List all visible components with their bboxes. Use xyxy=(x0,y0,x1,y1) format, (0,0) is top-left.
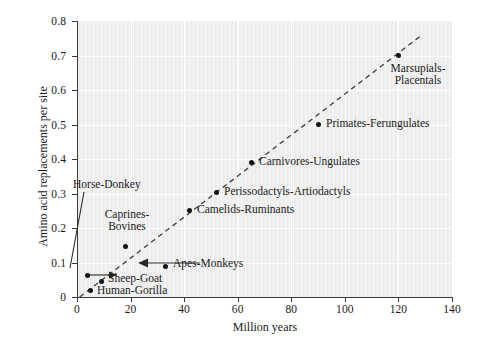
y-axis-line xyxy=(77,21,78,298)
x-axis-tick xyxy=(398,297,399,302)
y-axis-tick xyxy=(72,228,77,229)
x-axis-tick-label: 100 xyxy=(336,303,354,315)
x-axis-tick-label: 60 xyxy=(232,303,244,315)
x-axis-tick xyxy=(345,297,346,302)
data-point-horse-donkey xyxy=(85,273,90,278)
gridline-horizontal xyxy=(77,90,452,91)
data-label-horse-donkey: Horse-Donkey xyxy=(73,178,141,190)
y-axis-tick xyxy=(72,90,77,91)
data-label-camelids-ruminants: Camelids-Ruminants xyxy=(197,203,294,215)
gridline-vertical xyxy=(131,21,132,297)
y-axis-tick xyxy=(72,297,77,298)
data-label-carnivores-ungulates: Carnivores-Ungulates xyxy=(259,155,360,167)
data-label-human-gorilla: Human-Gorilla xyxy=(97,284,167,296)
y-axis-tick-label: 0.1 xyxy=(51,257,66,269)
data-label-primates-ferungulates: Primates-Ferungulates xyxy=(326,117,429,129)
data-point-carnivores-ungulates xyxy=(249,160,254,165)
x-axis-tick xyxy=(238,297,239,302)
y-axis-tick-label: 0.2 xyxy=(51,222,66,234)
y-axis-tick-label: 0.8 xyxy=(51,15,66,27)
x-axis-tick-label: 120 xyxy=(390,303,408,315)
x-axis-tick-label: 40 xyxy=(178,303,190,315)
data-label-apes-monkeys: Apes-Monkeys xyxy=(173,257,243,269)
x-axis-tick-label: 80 xyxy=(285,303,297,315)
y-axis-tick-label: 0.6 xyxy=(51,84,66,96)
y-axis-tick xyxy=(72,159,77,160)
gridline-horizontal xyxy=(77,263,452,264)
data-label-sheep-goat: Sheep-Goat xyxy=(108,272,162,284)
gridline-vertical xyxy=(238,21,239,297)
x-axis-tick-label: 20 xyxy=(125,303,137,315)
x-axis-tick xyxy=(77,297,78,302)
x-axis-tick xyxy=(184,297,185,302)
y-axis-tick xyxy=(72,21,77,22)
data-point-caprines-bovines xyxy=(123,244,128,249)
y-axis-tick-label: 0.7 xyxy=(51,50,66,62)
data-point-marsupials-placentals xyxy=(396,53,401,58)
y-axis-tick-label: 0 xyxy=(60,291,66,303)
y-axis-tick-label: 0.4 xyxy=(51,153,66,165)
y-axis-tick xyxy=(72,194,77,195)
y-axis-tick-label: 0.5 xyxy=(51,119,66,131)
data-label-marsupials-placentals: Marsupials- Placentals xyxy=(391,62,446,86)
y-axis-tick xyxy=(72,263,77,264)
y-axis-title: Amino acid replacements per site xyxy=(36,42,51,292)
data-point-primates-ferungulates xyxy=(316,122,321,127)
x-axis-tick xyxy=(131,297,132,302)
x-axis-tick-label: 0 xyxy=(74,303,80,315)
data-point-apes-monkeys xyxy=(163,264,168,269)
data-label-perissodactyls-artiodactyls: Perissodactyls-Artiodactyls xyxy=(224,185,350,197)
data-point-human-gorilla xyxy=(88,288,93,293)
data-label-caprines-bovines: Caprines- Bovines xyxy=(105,208,150,232)
y-axis-tick xyxy=(72,56,77,57)
gridline-vertical xyxy=(184,21,185,297)
x-axis-title: Million years xyxy=(77,320,453,335)
x-axis-tick xyxy=(291,297,292,302)
x-axis-line xyxy=(77,297,453,298)
y-axis-tick xyxy=(72,125,77,126)
y-axis-tick-label: 0.3 xyxy=(51,188,66,200)
scatter-chart-figure: 0 20 40 60 80 100 120 140 0 0.1 0.2 0.3 … xyxy=(0,0,481,339)
x-axis-tick-label: 140 xyxy=(443,303,461,315)
x-axis-tick xyxy=(452,297,453,302)
